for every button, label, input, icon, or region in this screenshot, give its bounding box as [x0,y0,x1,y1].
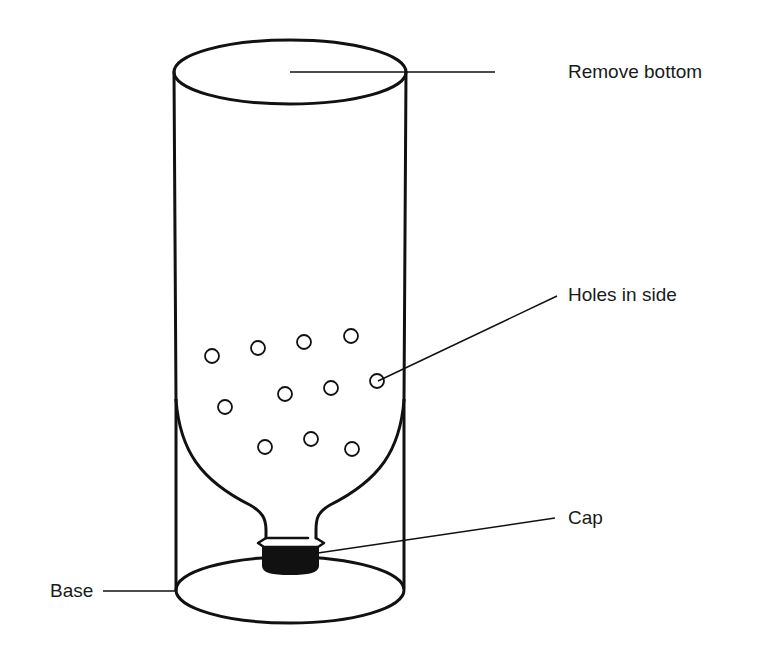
label-holes-in-side: Holes in side [568,284,677,306]
hole [278,387,292,401]
hole [205,349,219,363]
cap [263,548,318,574]
label-base: Base [50,580,93,602]
hole [304,432,318,446]
label-remove-bottom: Remove bottom [568,61,702,83]
hole [370,374,384,388]
label-cap: Cap [568,507,603,529]
bottle-diagram [0,0,771,655]
holes-group [205,329,384,456]
bottle-shoulder-right [316,400,404,538]
bottle-neck-collar [258,538,324,547]
hole [258,440,272,454]
hole [218,400,232,414]
hole [297,335,311,349]
hole [251,341,265,355]
bottle-shoulder-left [176,400,266,538]
leader-cap [318,518,555,553]
hole [344,329,358,343]
hole [345,442,359,456]
bottle-left-wall [174,72,176,400]
bottle-right-wall [404,72,406,400]
hole [324,381,338,395]
